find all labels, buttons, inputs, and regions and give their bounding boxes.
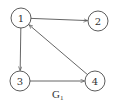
node-label: 4 <box>92 76 98 87</box>
node-3: 3 <box>10 71 30 91</box>
edge-1-to-3 <box>20 28 21 71</box>
nodes-layer: 1234 <box>10 8 108 91</box>
node-label: 2 <box>95 16 101 27</box>
edges-layer <box>20 18 87 81</box>
edge-4-to-1 <box>29 25 87 75</box>
node-label: 1 <box>18 13 24 24</box>
edge-1-to-2 <box>31 18 88 20</box>
node-label: 3 <box>17 76 23 87</box>
graph-diagram: 1234 G1 <box>0 0 117 105</box>
graph-caption: G1 <box>52 88 64 102</box>
node-4: 4 <box>85 71 105 91</box>
node-1: 1 <box>11 8 31 28</box>
node-2: 2 <box>88 11 108 31</box>
caption-letter: G <box>52 88 60 100</box>
caption-subscript: 1 <box>60 94 64 102</box>
